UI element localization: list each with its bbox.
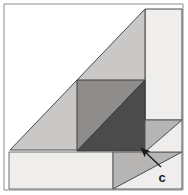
right-vertical-panel (145, 9, 182, 120)
vertex-label-c: c (158, 170, 165, 185)
dissection-diagram-svg: c (0, 0, 188, 195)
bottom-left-rectangle (9, 152, 113, 189)
geometric-figure-canvas: c (0, 0, 188, 195)
